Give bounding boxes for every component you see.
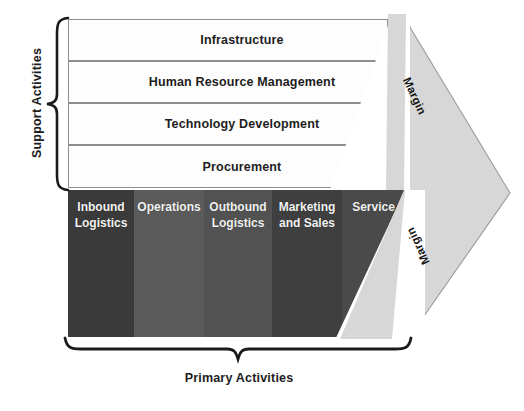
margin-label-upper: Margin xyxy=(401,76,429,117)
primary-activities-brace xyxy=(62,336,414,366)
primary-col-label: Operations xyxy=(137,199,200,215)
support-row-procurement[interactable]: Procurement xyxy=(68,145,388,188)
support-row-label: Infrastructure xyxy=(200,33,283,47)
primary-col-marketing-and-sales[interactable]: Marketing and Sales xyxy=(272,190,342,337)
primary-col-label: Inbound Logistics xyxy=(75,199,128,231)
support-activities-group-label: Support Activities xyxy=(30,33,44,173)
margin-label-lower: Margin xyxy=(404,226,432,267)
primary-activities-group-label: Primary Activities xyxy=(0,371,478,385)
value-chain-diagram: Infrastructure Human Resource Management… xyxy=(0,0,524,411)
support-row-infrastructure[interactable]: Infrastructure xyxy=(68,19,388,61)
primary-col-operations[interactable]: Operations xyxy=(134,190,204,337)
support-row-human-resource-management[interactable]: Human Resource Management xyxy=(68,61,388,103)
primary-col-inbound-logistics[interactable]: Inbound Logistics xyxy=(68,190,134,337)
primary-col-service[interactable]: Service xyxy=(342,190,405,337)
primary-activities-row: Inbound Logistics Operations Outbound Lo… xyxy=(68,190,405,337)
primary-col-label: Marketing and Sales xyxy=(279,199,336,231)
primary-col-label: Outbound Logistics xyxy=(209,199,266,231)
support-row-technology-development[interactable]: Technology Development xyxy=(68,103,388,145)
support-row-label: Procurement xyxy=(203,160,282,174)
support-activities-brace xyxy=(44,16,70,192)
primary-col-label: Service xyxy=(352,199,395,215)
support-activities-stack: Infrastructure Human Resource Management… xyxy=(68,19,388,188)
support-row-label: Technology Development xyxy=(165,117,319,131)
support-row-label: Human Resource Management xyxy=(149,75,335,89)
primary-col-outbound-logistics[interactable]: Outbound Logistics xyxy=(204,190,272,337)
